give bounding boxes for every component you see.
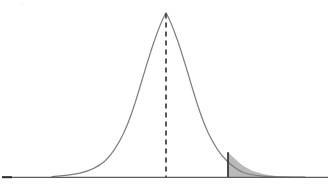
distribution-plot-canvas xyxy=(0,0,334,186)
shaded-tail-area xyxy=(228,152,312,177)
normal-distribution-figure: ~ xyxy=(0,0,334,186)
normal-curve-path xyxy=(52,13,305,177)
